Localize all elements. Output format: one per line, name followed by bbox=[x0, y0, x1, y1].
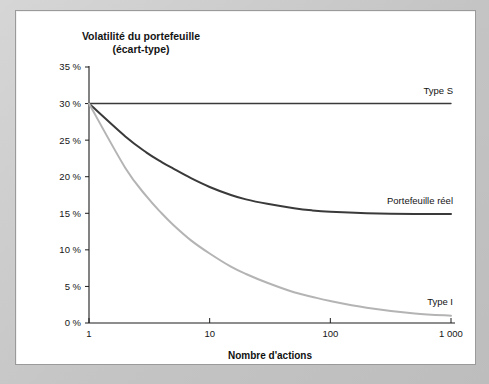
y-tick-label: 25 % bbox=[59, 135, 81, 146]
x-tick-label: 100 bbox=[322, 328, 338, 339]
y-tick-label: 30 % bbox=[59, 98, 81, 109]
y-tick-label: 35 % bbox=[59, 61, 81, 72]
chart-panel: Volatilité du portefeuille (écart-type) … bbox=[16, 11, 475, 364]
y-axis-ticks bbox=[85, 67, 89, 323]
series-label: Type I bbox=[427, 296, 453, 307]
data-series-group bbox=[89, 104, 451, 316]
x-axis-title: Nombre d'actions bbox=[228, 350, 312, 361]
chart-svg: 0 %5 %10 %15 %20 %25 %30 %35 % 1101001 0… bbox=[17, 12, 475, 364]
outer-frame: Volatilité du portefeuille (écart-type) … bbox=[0, 0, 489, 384]
x-axis-tick-labels: 1101001 000 bbox=[86, 328, 463, 339]
y-tick-label: 10 % bbox=[59, 244, 81, 255]
x-tick-label: 1 000 bbox=[439, 328, 463, 339]
y-axis-tick-labels: 0 %5 %10 %15 %20 %25 %30 %35 % bbox=[59, 61, 81, 328]
y-tick-label: 20 % bbox=[59, 171, 81, 182]
plot-area: 0 %5 %10 %15 %20 %25 %30 %35 % 1101001 0… bbox=[17, 12, 475, 364]
y-tick-label: 5 % bbox=[65, 281, 82, 292]
series-label: Portefeuille réel bbox=[387, 195, 453, 206]
series-annotations: Type SPortefeuille réelType I bbox=[387, 85, 453, 307]
y-tick-label: 0 % bbox=[65, 317, 82, 328]
y-tick-label: 15 % bbox=[59, 208, 81, 219]
series-line-type-i bbox=[89, 104, 451, 316]
series-label: Type S bbox=[423, 85, 453, 96]
x-tick-label: 1 bbox=[86, 328, 91, 339]
x-axis-ticks bbox=[89, 318, 451, 323]
x-tick-label: 10 bbox=[204, 328, 215, 339]
